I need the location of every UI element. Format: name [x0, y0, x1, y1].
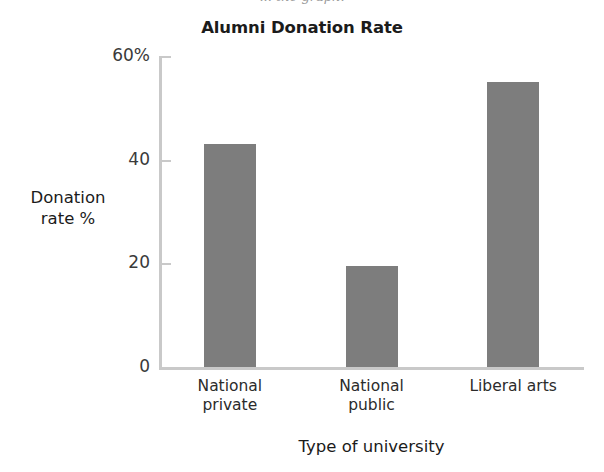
chart-title: Alumni Donation Rate	[0, 18, 604, 37]
y-axis-title: Donation rate %	[4, 187, 132, 229]
y-tick-label-40: 40	[60, 149, 150, 169]
category-label: National public	[297, 377, 447, 415]
cropped-caption: ... the graph.	[0, 0, 604, 4]
category-label: Liberal arts	[438, 377, 588, 396]
x-axis-line	[159, 367, 584, 370]
x-axis-title: Type of university	[159, 437, 584, 456]
y-tick-label-0: 0	[60, 356, 150, 376]
bar	[346, 266, 398, 367]
y-tick-label-20: 20	[60, 252, 150, 272]
bars-layer	[159, 57, 584, 367]
category-label: National private	[155, 377, 305, 415]
bar	[487, 82, 539, 367]
bar	[204, 144, 256, 367]
y-tick-label-60: 60%	[60, 45, 150, 65]
